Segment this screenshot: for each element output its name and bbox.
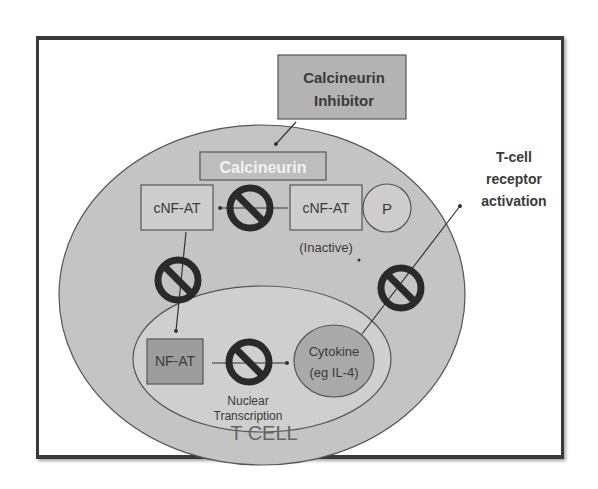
inhibitor-label-2: Inhibitor xyxy=(314,92,374,109)
tcr-label-1: T-cell xyxy=(496,149,532,165)
phosphate-label: P xyxy=(382,200,392,217)
calcineurin-label: Calcineurin xyxy=(219,159,306,176)
inactive-note: (Inactive) xyxy=(299,240,352,255)
calcineurin-inhibitor-box xyxy=(278,55,406,119)
nuclear-transcription-label-2: Transcription xyxy=(214,409,283,423)
inhibitor-label-1: Calcineurin xyxy=(303,69,385,86)
cytokine-label-2: (eg IL-4) xyxy=(309,365,358,380)
cytokine-ellipse xyxy=(294,325,374,397)
cytokine-label-1: Cytokine xyxy=(309,344,360,359)
tcr-label-2: receptor xyxy=(486,171,543,187)
t-cell-label: T CELL xyxy=(230,422,297,444)
tcr-label-3: activation xyxy=(481,193,546,209)
cnfat-active-label: cNF-AT xyxy=(153,200,201,216)
nuclear-transcription-label-1: Nuclear xyxy=(227,394,268,408)
tcell-diagram: Calcineurin Inhibitor Calcineurin cNF-AT… xyxy=(0,0,598,489)
nfat-label: NF-AT xyxy=(155,353,196,369)
cnfat-inactive-label: cNF-AT xyxy=(302,200,350,216)
marker-dot xyxy=(358,259,361,262)
